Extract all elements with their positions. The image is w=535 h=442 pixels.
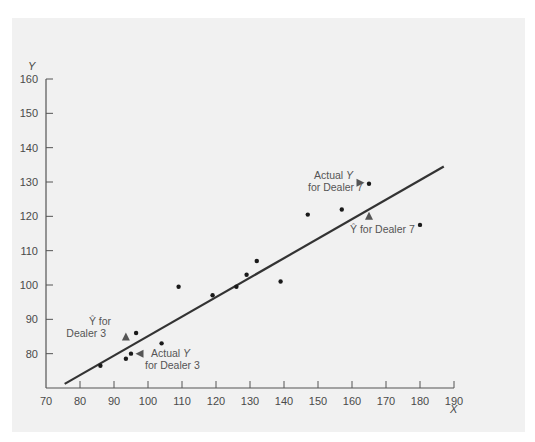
data-point	[210, 293, 214, 297]
data-point	[306, 212, 310, 216]
annotation-yhat-dealer3: Ŷ for Dealer 3	[66, 315, 111, 339]
annotation-markers	[122, 179, 373, 358]
annotation-actual-dealer3-line1: Actual Y	[151, 347, 191, 359]
data-point	[124, 357, 128, 361]
annotation-yhat-dealer7-text: Ŷ for Dealer 7	[350, 223, 415, 235]
x-tick-label: 70	[40, 395, 52, 407]
x-tick-label: 130	[241, 395, 259, 407]
regression-line	[65, 167, 444, 384]
data-points	[98, 182, 422, 368]
y-tick-label: 110	[20, 245, 38, 257]
data-point	[255, 259, 259, 263]
x-tick-label: 110	[173, 395, 191, 407]
data-point	[278, 279, 282, 283]
triangle-up-marker-icon	[365, 212, 373, 220]
x-tick-label: 140	[275, 395, 293, 407]
annotation-actual-dealer7: Actual Y for Dealer 7	[308, 169, 363, 193]
data-point	[244, 273, 248, 277]
data-point	[129, 351, 133, 355]
x-tick-label: 160	[343, 395, 361, 407]
data-point	[159, 341, 163, 345]
axis-ticks: 8090100110120130140150160708090100110120…	[20, 73, 464, 407]
x-tick-label: 90	[108, 395, 120, 407]
scatter-chart: 8090100110120130140150160708090100110120…	[0, 0, 535, 442]
data-point	[418, 223, 422, 227]
y-tick-label: 100	[20, 279, 38, 291]
y-tick-label: 160	[20, 73, 38, 85]
annotation-actual-dealer7-line1: Actual Y	[314, 169, 354, 181]
annotation-actual-dealer3: Actual Y for Dealer 3	[145, 347, 200, 371]
x-tick-label: 80	[74, 395, 86, 407]
x-tick-label: 150	[309, 395, 327, 407]
x-axis-title: X	[449, 403, 458, 415]
x-tick-label: 180	[411, 395, 429, 407]
x-tick-label: 120	[207, 395, 225, 407]
y-tick-label: 130	[20, 176, 38, 188]
annotation-actual-dealer7-line2: for Dealer 7	[308, 181, 363, 193]
triangle-up-marker-icon	[122, 333, 130, 341]
annotation-yhat-dealer3-line1: Ŷ for	[89, 315, 112, 327]
data-point	[234, 285, 238, 289]
data-point	[134, 331, 138, 335]
annotation-actual-dealer3-line2: for Dealer 3	[145, 359, 200, 371]
triangle-left-marker-icon	[136, 350, 144, 358]
y-tick-label: 140	[20, 142, 38, 154]
data-point	[176, 285, 180, 289]
x-tick-label: 100	[139, 395, 157, 407]
y-axis-title: Y	[28, 60, 36, 72]
y-tick-label: 120	[20, 210, 38, 222]
y-tick-label: 90	[26, 313, 38, 325]
y-tick-label: 80	[26, 348, 38, 360]
annotation-yhat-dealer3-line2: Dealer 3	[66, 327, 106, 339]
data-point	[340, 207, 344, 211]
data-point	[367, 182, 371, 186]
y-tick-label: 150	[20, 107, 38, 119]
annotation-yhat-dealer7: Ŷ for Dealer 7	[350, 223, 415, 235]
x-tick-label: 170	[377, 395, 395, 407]
data-point	[98, 363, 102, 367]
